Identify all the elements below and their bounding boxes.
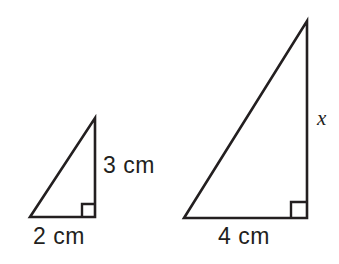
large-triangle	[184, 21, 307, 218]
figure-canvas: 3 cm 2 cm x 4 cm	[0, 0, 339, 264]
small-triangle	[30, 118, 95, 217]
large-triangle-outline	[184, 21, 307, 218]
large-triangle-base-label: 4 cm	[218, 225, 270, 248]
small-triangle-right-angle-marker	[82, 204, 95, 217]
small-triangle-base-label: 2 cm	[33, 225, 85, 248]
small-triangle-outline	[30, 118, 95, 217]
small-triangle-leg-label: 3 cm	[103, 154, 155, 177]
large-triangle-leg-label-x: x	[317, 108, 326, 129]
large-triangle-right-angle-marker	[291, 202, 307, 218]
